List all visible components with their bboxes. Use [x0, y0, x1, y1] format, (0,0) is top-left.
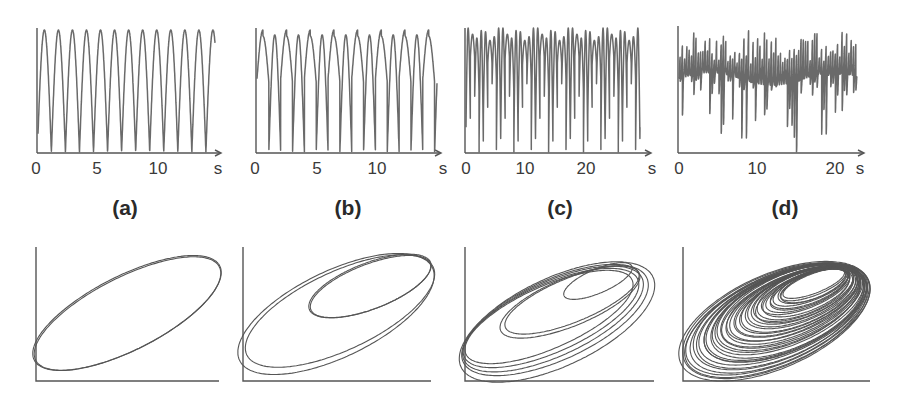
- x-tick-label: 10: [748, 159, 767, 178]
- time-series-panel-c: 0 10 20 s (c): [461, 28, 656, 219]
- phase-portrait-panel-d: [679, 247, 870, 381]
- orbit-group: [459, 262, 654, 382]
- x-tick-label: 0: [250, 159, 259, 178]
- signal-trace: [679, 31, 857, 152]
- signal-trace: [466, 28, 640, 152]
- panel-label-b: (b): [335, 196, 362, 219]
- x-tick-label: 20: [826, 159, 845, 178]
- panel-label-c: (c): [547, 196, 573, 219]
- orbit-loop: [463, 268, 639, 367]
- orbit-group: [679, 261, 870, 381]
- x-tick-label: 20: [577, 159, 596, 178]
- panel-label-a: (a): [112, 196, 138, 219]
- signal-trace: [38, 30, 215, 152]
- orbit-loop: [238, 254, 434, 375]
- phase-portrait-panel-a: [33, 247, 221, 381]
- orbit-loop: [465, 270, 633, 363]
- x-tick-label: 10: [149, 159, 168, 178]
- x-unit-label: s: [439, 159, 448, 178]
- x-unit-label: s: [856, 159, 865, 178]
- x-tick-label: 10: [516, 159, 535, 178]
- orbit-loop: [309, 254, 431, 318]
- orbit-loop: [310, 255, 430, 317]
- x-tick-label: 0: [31, 159, 40, 178]
- orbit-group: [33, 256, 221, 371]
- orbit-loop: [34, 257, 221, 370]
- orbit-group: [238, 254, 435, 375]
- phase-portrait-panel-c: [459, 247, 654, 382]
- x-unit-label: s: [648, 159, 657, 178]
- panel-label-d: (d): [772, 196, 799, 219]
- figure: 0 5 10 s (a) 0 5 10 s (b) 0 10 20 s (c) …: [0, 0, 897, 404]
- x-unit-label: s: [214, 159, 223, 178]
- time-series-panel-a: 0 5 10 s (a): [31, 28, 222, 219]
- time-series-panel-d: 0 10 20 s (d): [674, 26, 864, 219]
- y-axis: [36, 247, 219, 381]
- x-tick-label: 10: [368, 159, 387, 178]
- x-tick-label: 5: [92, 159, 101, 178]
- orbit-loop: [245, 255, 434, 368]
- signal-trace: [257, 30, 437, 152]
- time-series-panel-b: 0 5 10 s (b): [250, 28, 447, 219]
- x-tick-label: 0: [674, 159, 683, 178]
- x-tick-label: 0: [461, 159, 470, 178]
- phase-portrait-panel-b: [238, 247, 435, 381]
- x-tick-label: 5: [312, 159, 321, 178]
